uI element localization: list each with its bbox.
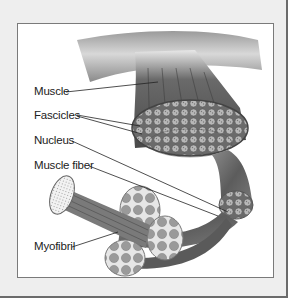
fascicle-cross-section bbox=[132, 100, 248, 156]
label-muscle-fiber: Muscle fiber bbox=[34, 159, 94, 171]
label-muscle: Muscle bbox=[34, 85, 69, 97]
myofibril-block-low bbox=[105, 240, 145, 276]
label-myofibril: Myofibril bbox=[34, 240, 75, 252]
label-nucleus: Nucleus bbox=[34, 134, 74, 146]
muscle-illustration bbox=[0, 0, 297, 307]
myofibril-block-mid bbox=[147, 216, 183, 260]
label-fascicles: Fascicles bbox=[34, 109, 80, 121]
